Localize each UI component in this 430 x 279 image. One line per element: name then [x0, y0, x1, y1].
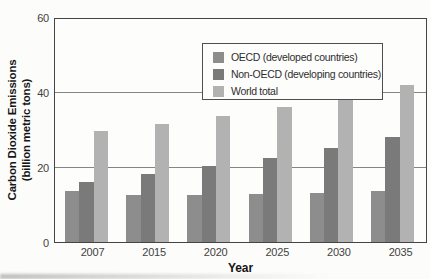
plot-area: OECD (developed countries)Non-OECD (deve…	[54, 18, 427, 243]
x-axis-ticks: 200720152020202520302035	[61, 246, 430, 258]
legend-swatch	[213, 86, 224, 97]
y-tick-label: 40	[37, 87, 49, 99]
bar-series1-2030	[324, 148, 338, 242]
y-tick-label: 20	[37, 162, 49, 174]
scan-artifact	[0, 274, 335, 279]
bar-series1-2035	[385, 137, 399, 242]
bar-series2-2035	[400, 85, 414, 242]
x-tick-label: 2030	[317, 246, 360, 258]
legend-label: World total	[231, 85, 278, 97]
bar-series0-2030	[310, 193, 324, 242]
y-axis-ticks: 0204060	[0, 18, 49, 243]
legend-item: Non-OECD (developing countries)	[213, 66, 382, 82]
legend: OECD (developed countries)Non-OECD (deve…	[202, 43, 383, 100]
x-tick-label: 2007	[71, 246, 114, 258]
bar-series0-2015	[126, 195, 140, 242]
y-tick-label: 60	[37, 12, 49, 24]
bar-group-2015	[126, 19, 169, 242]
bar-series1-2020	[202, 166, 216, 242]
bar-group-2007	[65, 19, 108, 242]
bar-series2-2030	[338, 96, 352, 242]
legend-item: World total	[213, 83, 382, 99]
co2-emissions-bar-chart: Carbon Dioxide Emissions (billion metric…	[0, 0, 430, 279]
bar-series0-2025	[249, 194, 263, 242]
x-tick-label: 2025	[256, 246, 299, 258]
x-tick-label: 2020	[194, 246, 237, 258]
legend-item: OECD (developed countries)	[213, 49, 382, 65]
bar-series2-2015	[155, 124, 169, 242]
bar-series0-2020	[187, 195, 201, 242]
bar-series1-2007	[79, 182, 93, 242]
legend-label: OECD (developed countries)	[231, 51, 357, 63]
bar-series0-2035	[371, 191, 385, 242]
legend-swatch	[213, 52, 224, 63]
bar-series2-2007	[94, 131, 108, 243]
bar-series0-2007	[65, 191, 79, 242]
bar-series2-2025	[277, 107, 291, 242]
x-tick-label: 2035	[379, 246, 422, 258]
bar-series1-2025	[263, 158, 277, 242]
bar-series2-2020	[216, 116, 230, 242]
legend-swatch	[213, 69, 224, 80]
legend-label: Non-OECD (developing countries)	[231, 68, 381, 80]
bar-series1-2015	[141, 174, 155, 242]
x-tick-label: 2015	[133, 246, 176, 258]
x-axis-title: Year	[54, 261, 427, 275]
y-tick-label: 0	[43, 237, 49, 249]
